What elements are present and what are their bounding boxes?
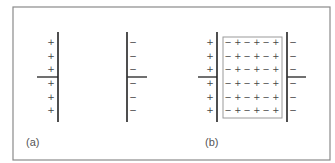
plus-charge: + <box>47 105 55 115</box>
dielectric-dipoles: − +− +− +− +− +− +− +− +− +− +− +− +− +−… <box>225 37 280 115</box>
dipole: − + <box>225 78 242 88</box>
minus-charge: − <box>129 64 137 74</box>
capacitor-diagram: ++++++ −−−−−− (a) ++++++ − +− +− +− +− +… <box>0 0 335 163</box>
dipole: − + <box>244 37 261 47</box>
minus-charge: − <box>129 105 137 115</box>
minus-charge: − <box>289 92 297 102</box>
dipole: − + <box>225 37 242 47</box>
dipole: − + <box>244 51 261 61</box>
dipole: − + <box>244 78 261 88</box>
minus-charge: − <box>289 64 297 74</box>
minus-charge: − <box>289 51 297 61</box>
dipole: − + <box>225 64 242 74</box>
plus-charge: + <box>206 51 214 61</box>
plus-charge: + <box>47 64 55 74</box>
dipole: − + <box>263 105 280 115</box>
minus-charge: − <box>289 78 297 88</box>
minus-charge: − <box>129 92 137 102</box>
dipole: − + <box>263 64 280 74</box>
dipole: − + <box>225 92 242 102</box>
panel-b: ++++++ − +− +− +− +− +− +− +− +− +− +− +… <box>198 32 306 148</box>
negative-charges: −−−−−− <box>129 37 137 115</box>
dipole: − + <box>244 64 261 74</box>
dipole: − + <box>263 37 280 47</box>
panel-label-b: (b) <box>205 136 218 148</box>
positive-charges: ++++++ <box>206 37 214 115</box>
dipole: − + <box>263 78 280 88</box>
minus-charge: − <box>129 37 137 47</box>
dipole: − + <box>225 51 242 61</box>
plus-charge: + <box>47 78 55 88</box>
plus-charge: + <box>206 105 214 115</box>
plus-charge: + <box>206 78 214 88</box>
minus-charge: − <box>289 105 297 115</box>
plus-charge: + <box>206 92 214 102</box>
plus-charge: + <box>47 92 55 102</box>
panel-a: ++++++ −−−−−− (a) <box>26 32 147 148</box>
plus-charge: + <box>206 64 214 74</box>
panel-label-a: (a) <box>26 136 39 148</box>
dipole: − + <box>263 51 280 61</box>
minus-charge: − <box>129 51 137 61</box>
dipole: − + <box>244 105 261 115</box>
minus-charge: − <box>289 37 297 47</box>
dipole: − + <box>225 105 242 115</box>
plus-charge: + <box>206 37 214 47</box>
dipole: − + <box>244 92 261 102</box>
dipole: − + <box>263 92 280 102</box>
plus-charge: + <box>47 37 55 47</box>
minus-charge: − <box>129 78 137 88</box>
negative-charges: −−−−−− <box>289 37 297 115</box>
plus-charge: + <box>47 51 55 61</box>
positive-charges: ++++++ <box>47 37 55 115</box>
